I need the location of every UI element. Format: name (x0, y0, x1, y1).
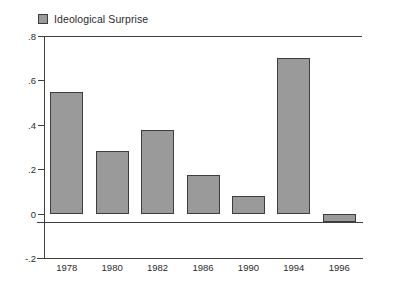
chart-legend: Ideological Surprise (38, 12, 148, 26)
zero-baseline (37, 222, 363, 223)
x-axis-label-1994: 1994 (283, 262, 304, 273)
legend-label: Ideological Surprise (54, 13, 148, 25)
plot-top-border (44, 36, 362, 37)
y-axis-label: .2 (2, 164, 36, 175)
y-tick-0 (38, 214, 44, 215)
legend-swatch-icon (38, 14, 48, 24)
bar-1990 (232, 196, 265, 214)
y-tick-.2 (38, 169, 44, 170)
x-axis-label-1986: 1986 (192, 262, 213, 273)
y-axis-line (44, 36, 45, 258)
chart-page: Ideological Surprise .8.6.4.20-.2 197819… (0, 0, 401, 295)
y-axis-label: .6 (2, 75, 36, 86)
y-axis-label: .4 (2, 119, 36, 130)
x-axis-label-1996: 1996 (329, 262, 350, 273)
bar-1996 (323, 214, 356, 223)
x-axis-label-1980: 1980 (102, 262, 123, 273)
x-axis-label-1982: 1982 (147, 262, 168, 273)
bar-1980 (96, 151, 129, 213)
y-tick-.6 (38, 80, 44, 81)
y-tick-.8 (38, 36, 44, 37)
y-axis-label: -.2 (2, 253, 36, 264)
y-axis-labels: .8.6.4.20-.2 (0, 0, 36, 295)
y-axis-label: 0 (2, 208, 36, 219)
x-axis-label-1990: 1990 (238, 262, 259, 273)
x-axis-line (37, 258, 363, 259)
bar-1982 (141, 130, 174, 213)
bar-1994 (277, 58, 310, 213)
x-axis-label-1978: 1978 (56, 262, 77, 273)
bar-1986 (187, 175, 220, 214)
y-tick--.2 (38, 258, 44, 259)
bar-1978 (50, 92, 83, 214)
y-tick-.4 (38, 125, 44, 126)
y-axis-label: .8 (2, 31, 36, 42)
